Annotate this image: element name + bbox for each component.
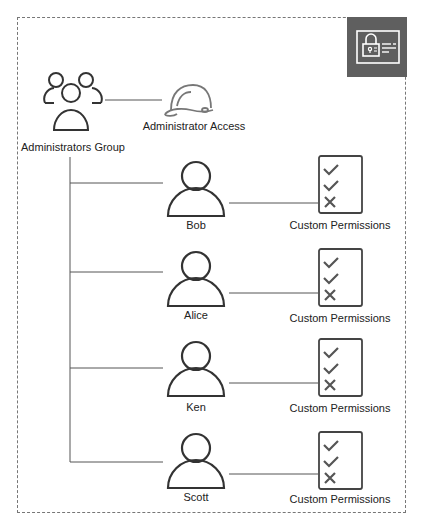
user-icon — [165, 160, 227, 218]
checklist-icon — [318, 338, 364, 398]
permissions-label: Custom Permissions — [290, 219, 391, 231]
checklist-icon — [318, 248, 364, 308]
hard-hat-icon — [163, 82, 215, 118]
users-group-icon — [42, 70, 104, 132]
permissions-label: Custom Permissions — [290, 312, 391, 324]
group-label: Administrators Group — [21, 141, 125, 153]
permissions-label: Custom Permissions — [290, 402, 391, 414]
policy-label: Administrator Access — [143, 120, 246, 132]
permissions-label: Custom Permissions — [290, 493, 391, 505]
user-name: Bob — [186, 219, 206, 231]
checklist-icon — [318, 155, 364, 215]
checklist-icon — [318, 431, 364, 491]
user-name: Alice — [184, 309, 208, 321]
user-icon — [165, 250, 227, 308]
user-icon — [165, 432, 227, 490]
user-name: Scott — [183, 491, 208, 503]
user-name: Ken — [186, 401, 206, 413]
user-icon — [165, 340, 227, 398]
